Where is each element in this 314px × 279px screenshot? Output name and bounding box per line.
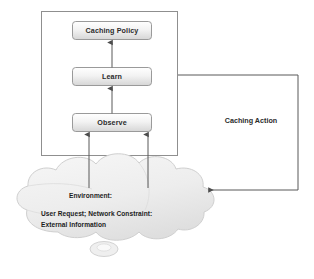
diagram-canvas: Caching Policy Learn Observe Caching Act… bbox=[0, 0, 314, 279]
environment-cloud-line-3: External Information bbox=[41, 221, 106, 228]
diagram-svg bbox=[0, 0, 314, 279]
node-learn-rect[interactable] bbox=[73, 68, 152, 86]
node-observe-rect[interactable] bbox=[73, 114, 152, 132]
node-caching-policy-rect[interactable] bbox=[73, 22, 152, 40]
environment-cloud-shape bbox=[17, 154, 214, 257]
environment-cloud-line-2: User Request; Network Constraint: bbox=[41, 210, 152, 217]
environment-cloud-line-1: Environment: bbox=[69, 192, 112, 199]
